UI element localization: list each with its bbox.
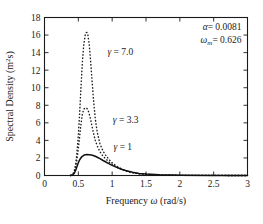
series-label-3: γ = 1 xyxy=(114,142,133,152)
series-curve-2 xyxy=(70,108,247,176)
annotation-2: ωm= 0.626 xyxy=(201,35,242,47)
spectral-density-figure: 00.511.522.53024681012141618γ = 7.0γ = 3… xyxy=(0,0,263,224)
x-tick-label: 0 xyxy=(42,179,47,189)
x-tick-label: 1.5 xyxy=(140,179,152,189)
y-tick-label: 18 xyxy=(31,13,41,23)
y-tick-label: 6 xyxy=(36,118,41,128)
series-curve-1 xyxy=(70,32,247,175)
x-axis-title: Frequency ω (rad/s) xyxy=(106,195,186,207)
annotation-1: α= 0.0081 xyxy=(203,22,242,32)
series-label-2: γ = 3.3 xyxy=(113,115,139,125)
y-axis-title: Spectral Density (m2s) xyxy=(4,51,16,142)
y-tick-label: 16 xyxy=(31,30,41,40)
y-tick-label: 0 xyxy=(36,171,41,181)
y-tick-label: 10 xyxy=(31,83,41,93)
y-tick-label: 14 xyxy=(31,48,41,58)
x-tick-label: 3 xyxy=(245,179,250,189)
series-label-1: γ = 7.0 xyxy=(107,47,133,57)
chart-canvas: 00.511.522.53024681012141618γ = 7.0γ = 3… xyxy=(0,0,263,224)
x-tick-label: 2.5 xyxy=(208,179,220,189)
y-tick-label: 12 xyxy=(31,66,41,76)
x-tick-label: 1 xyxy=(110,179,115,189)
x-tick-label: 0.5 xyxy=(72,179,84,189)
x-tick-label: 2 xyxy=(177,179,182,189)
y-tick-label: 4 xyxy=(36,136,41,146)
series-curve-3 xyxy=(70,155,247,176)
y-tick-label: 2 xyxy=(36,153,41,163)
y-tick-label: 8 xyxy=(36,101,41,111)
